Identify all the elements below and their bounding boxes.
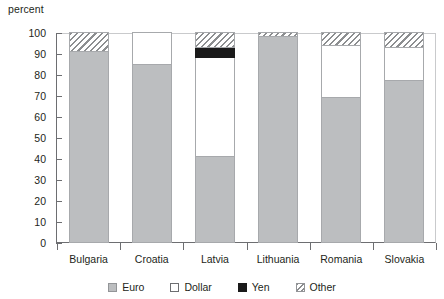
bar-group bbox=[258, 33, 298, 243]
legend-label: Dollar bbox=[184, 281, 211, 293]
bar-segment-euro[interactable] bbox=[195, 156, 235, 243]
y-axis-tick-label: 30 bbox=[34, 174, 46, 186]
bar-group bbox=[321, 33, 361, 243]
stacked-bar-chart: percent 0102030405060708090100 BulgariaC… bbox=[0, 0, 444, 299]
x-axis-category-label: Lithuania bbox=[257, 253, 300, 265]
bar-segment-other[interactable] bbox=[321, 32, 361, 46]
chart-legend: EuroDollarYenOther bbox=[0, 277, 444, 297]
x-axis-category-label: Bulgaria bbox=[69, 253, 108, 265]
legend-label: Yen bbox=[252, 281, 270, 293]
y-axis-tick-label: 0 bbox=[40, 237, 46, 249]
legend-item-dollar[interactable]: Dollar bbox=[170, 281, 211, 293]
bars-layer bbox=[57, 33, 436, 243]
bar-stack-latvia[interactable] bbox=[195, 33, 235, 243]
y-axis-tick-mark bbox=[56, 180, 62, 181]
y-axis-tick-mark bbox=[56, 222, 62, 223]
x-axis-tick-mark bbox=[310, 243, 311, 250]
bar-segment-dollar[interactable] bbox=[132, 32, 172, 65]
legend-label: Other bbox=[310, 281, 336, 293]
y-axis-tick-label: 90 bbox=[34, 48, 46, 60]
bar-segment-dollar[interactable] bbox=[195, 57, 235, 157]
bar-segment-other[interactable] bbox=[384, 32, 424, 48]
legend-swatch-icon-euro bbox=[108, 283, 117, 292]
y-axis-tick-mark bbox=[56, 138, 62, 139]
x-axis-tick-mark bbox=[247, 243, 248, 250]
bar-group bbox=[384, 33, 424, 243]
bar-segment-yen[interactable] bbox=[195, 47, 235, 59]
y-axis-tick-label: 40 bbox=[34, 153, 46, 165]
bar-segment-other[interactable] bbox=[195, 32, 235, 48]
y-axis-tick-mark bbox=[56, 159, 62, 160]
bar-segment-euro[interactable] bbox=[69, 51, 109, 243]
bar-segment-euro[interactable] bbox=[258, 36, 298, 243]
bar-segment-euro[interactable] bbox=[132, 64, 172, 244]
bar-group bbox=[69, 33, 109, 243]
y-axis-tick-label: 20 bbox=[34, 195, 46, 207]
x-axis-category-label: Latvia bbox=[201, 253, 229, 265]
bar-stack-croatia[interactable] bbox=[132, 33, 172, 243]
y-axis-tick-mark bbox=[56, 33, 62, 34]
legend-item-yen[interactable]: Yen bbox=[238, 281, 270, 293]
x-axis-tick-mark bbox=[120, 243, 121, 250]
bar-stack-lithuania[interactable] bbox=[258, 33, 298, 243]
y-axis-tick-label: 60 bbox=[34, 111, 46, 123]
bar-stack-slovakia[interactable] bbox=[384, 33, 424, 243]
y-axis-tick-mark bbox=[56, 117, 62, 118]
x-axis-category-labels: BulgariaCroatiaLatviaLithuaniaRomaniaSlo… bbox=[57, 253, 436, 271]
bar-stack-romania[interactable] bbox=[321, 33, 361, 243]
y-axis-tick-label: 50 bbox=[34, 132, 46, 144]
legend-swatch-icon-other bbox=[296, 283, 305, 292]
y-axis-tick-mark bbox=[56, 54, 62, 55]
x-axis-category-label: Romania bbox=[320, 253, 362, 265]
bar-segment-other[interactable] bbox=[69, 32, 109, 52]
x-axis-tick-mark bbox=[183, 243, 184, 250]
y-axis-tick-mark bbox=[56, 201, 62, 202]
y-axis-unit-label: percent bbox=[8, 3, 44, 15]
y-axis-tick-label: 100 bbox=[28, 27, 46, 39]
legend-item-other[interactable]: Other bbox=[296, 281, 336, 293]
y-axis-tick-label: 10 bbox=[34, 216, 46, 228]
x-axis-category-label: Slovakia bbox=[385, 253, 425, 265]
bar-segment-dollar[interactable] bbox=[321, 45, 361, 99]
x-axis-tick-mark bbox=[436, 243, 437, 250]
x-axis-tick-mark bbox=[373, 243, 374, 250]
y-axis-tick-mark bbox=[56, 96, 62, 97]
x-axis-category-label: Croatia bbox=[135, 253, 169, 265]
bar-group bbox=[132, 33, 172, 243]
legend-item-euro[interactable]: Euro bbox=[108, 281, 144, 293]
bar-stack-bulgaria[interactable] bbox=[69, 33, 109, 243]
y-axis-tick-labels: 0102030405060708090100 bbox=[14, 33, 46, 243]
x-axis-tick-mark bbox=[57, 243, 58, 250]
bar-group bbox=[195, 33, 235, 243]
bar-segment-dollar[interactable] bbox=[384, 47, 424, 82]
legend-label: Euro bbox=[122, 281, 144, 293]
bar-segment-other[interactable] bbox=[258, 32, 298, 37]
bar-segment-euro[interactable] bbox=[384, 80, 424, 243]
y-axis-tick-label: 80 bbox=[34, 69, 46, 81]
legend-swatch-icon-dollar bbox=[170, 283, 179, 292]
y-axis-tick-mark bbox=[56, 75, 62, 76]
legend-swatch-icon-yen bbox=[238, 283, 247, 292]
y-axis-tick-label: 70 bbox=[34, 90, 46, 102]
bar-segment-euro[interactable] bbox=[321, 97, 361, 243]
